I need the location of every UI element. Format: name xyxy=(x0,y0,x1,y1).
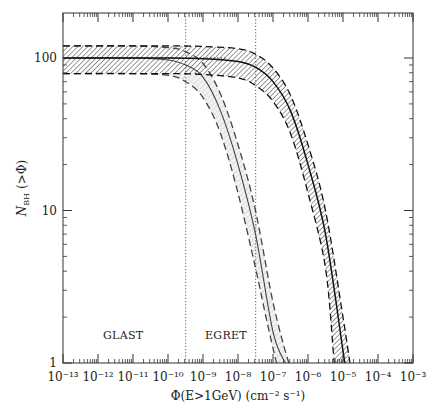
x-tick-label: 10⁻⁶ xyxy=(295,370,322,384)
y-axis-label: NBH(>Φ) xyxy=(15,160,31,218)
band-b-central-line xyxy=(63,58,345,371)
y-tick-label: 100 xyxy=(34,51,57,65)
band-a-dashed-line xyxy=(63,46,294,371)
x-tick-label: 10⁻³ xyxy=(400,370,427,384)
x-tick-label: 10⁻¹³ xyxy=(47,370,78,384)
chart: 10⁻¹³10⁻¹²10⁻¹¹10⁻¹⁰10⁻⁹10⁻⁸10⁻⁷10⁻⁶10⁻⁵… xyxy=(0,0,437,412)
x-tick-label: 10⁻¹² xyxy=(82,370,113,384)
x-tick-label: 10⁻⁴ xyxy=(365,370,392,384)
x-tick-label: 10⁻¹⁰ xyxy=(152,370,183,384)
svg-text:NBH(>Φ): NBH(>Φ) xyxy=(15,160,31,218)
x-tick-label: 10⁻⁹ xyxy=(190,370,217,384)
y-tick-label: 1 xyxy=(49,356,57,370)
egret-label: EGRET xyxy=(205,329,247,342)
glast-label: GLAST xyxy=(103,329,144,342)
x-tick-label: 10⁻⁷ xyxy=(260,370,287,384)
confidence-bands xyxy=(63,46,351,372)
x-tick-label: 10⁻⁵ xyxy=(330,370,357,384)
y-tick-label: 10 xyxy=(42,204,57,218)
x-axis-label: Φ(E>1GeV) (cm⁻² s⁻¹) xyxy=(171,389,306,403)
x-tick-label: 10⁻¹¹ xyxy=(117,370,148,384)
x-tick-label: 10⁻⁸ xyxy=(225,370,252,384)
